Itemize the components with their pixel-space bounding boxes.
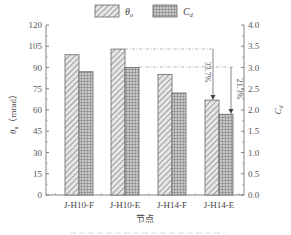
legend: θu Cd <box>95 5 194 18</box>
right-tick-label: 2.0 <box>248 105 260 115</box>
right-tick-label: 0.0 <box>248 190 260 200</box>
left-tick-label: 90 <box>33 63 43 73</box>
left-tick-label: 15 <box>33 169 43 179</box>
left-tick-label: 105 <box>29 41 43 51</box>
right-tick-label: 1.5 <box>248 126 260 136</box>
legend-swatch-cd <box>153 5 177 17</box>
category-label: J-H14-E <box>204 200 235 210</box>
left-tick-label: 30 <box>33 148 43 158</box>
x-axis-title: 节点 <box>136 214 154 224</box>
bar-theta-u <box>158 75 172 195</box>
left-tick-label: 60 <box>33 105 43 115</box>
legend-label-theta: θu <box>125 6 133 18</box>
bar-theta-u <box>205 100 219 195</box>
right-tick-label: 1.0 <box>248 148 260 158</box>
bar-theta-u <box>111 49 125 195</box>
left-axis-title: θu（mrad） <box>8 90 19 134</box>
right-tick-label: 0.5 <box>248 169 260 179</box>
category-label: J-H10-F <box>64 200 94 210</box>
legend-label-cd: Cd <box>183 6 194 18</box>
bar-cd <box>219 114 233 195</box>
theta-arrowhead-icon <box>211 95 216 100</box>
bar-theta-u <box>65 55 79 195</box>
theta-reduction-label: 33.7% <box>203 62 212 83</box>
left-tick-label: 75 <box>33 84 43 94</box>
legend-swatch-theta <box>95 5 119 17</box>
bar-cd <box>172 93 186 195</box>
bar-cd <box>125 68 139 196</box>
right-tick-label: 3.0 <box>248 63 260 73</box>
right-axis-title: Cd <box>273 104 284 114</box>
bar-cd <box>79 72 93 195</box>
right-tick-label: 3.5 <box>248 41 260 51</box>
left-tick-label: 0 <box>38 190 43 200</box>
category-labels: J-H10-FJ-H10-EJ-H14-FJ-H14-E <box>64 200 235 210</box>
category-label: J-H10-E <box>110 200 141 210</box>
left-tick-label: 120 <box>29 20 43 30</box>
bar-chart: θu Cd 0153045607590105120 0.00.51.01.52.… <box>0 0 291 235</box>
left-tick-label: 45 <box>33 126 43 136</box>
right-tick-label: 4.0 <box>248 20 260 30</box>
cd-reduction-label: 21.3% <box>235 79 244 100</box>
category-label: J-H14-F <box>157 200 187 210</box>
cd-arrowhead-icon <box>229 109 234 114</box>
right-tick-label: 2.5 <box>248 84 260 94</box>
